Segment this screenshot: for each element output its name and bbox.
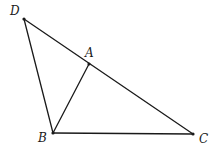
label-c: C (199, 132, 208, 146)
segments (24, 19, 193, 134)
segment-bc (53, 133, 193, 134)
label-b: B (37, 131, 47, 145)
point-c (191, 132, 194, 135)
point-a (87, 62, 90, 65)
segment-ba (53, 64, 89, 133)
point-b (51, 131, 54, 134)
point-d (22, 17, 25, 20)
label-a: A (84, 46, 94, 60)
geometry-diagram: DABC (0, 0, 217, 152)
label-d: D (9, 4, 20, 18)
